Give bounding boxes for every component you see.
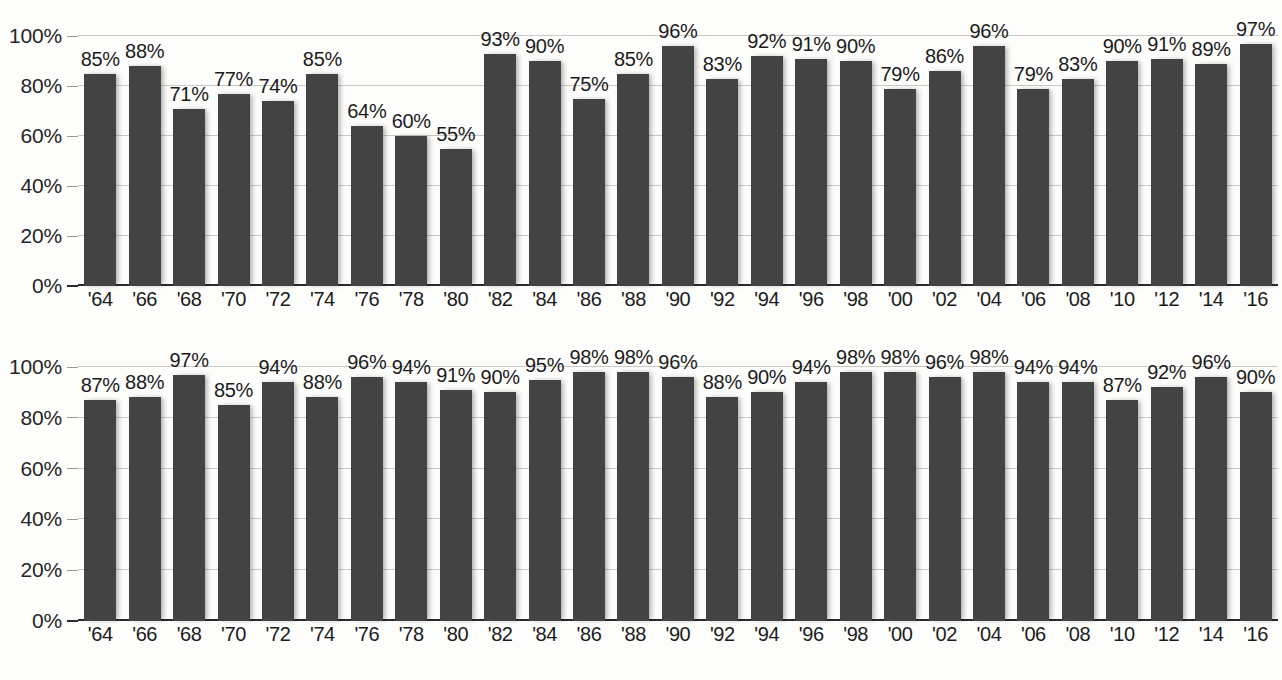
bar-value-label: 90% — [1103, 35, 1142, 58]
x-axis-tick-label: '98 — [833, 288, 877, 322]
x-axis-tick-label: '74 — [300, 288, 344, 322]
bar-value-label: 96% — [658, 20, 697, 43]
bar-series-bottom: 87%88%97%85%94%88%96%94%91%90%95%98%98%9… — [78, 367, 1278, 621]
x-axis-tick-label: '78 — [389, 288, 433, 322]
bar-value-label: 90% — [525, 35, 564, 58]
y-axis-bottom: 0%20%40%60%80%100% — [0, 367, 78, 621]
bar-slot: 87% — [1100, 367, 1144, 621]
y-axis-tick-label: 40% — [21, 174, 62, 198]
bar: 98% — [884, 372, 916, 621]
bar: 94% — [395, 382, 427, 621]
bar: 94% — [262, 382, 294, 621]
bar-slot: 93% — [478, 36, 522, 286]
y-axis-tick: 60% — [21, 457, 78, 481]
bar-chart-bottom: 0%20%40%60%80%100% 87%88%97%85%94%88%96%… — [0, 345, 1282, 665]
bar-value-label: 91% — [436, 364, 475, 387]
y-axis-tick-label: 40% — [21, 507, 62, 531]
bar-value-label: 85% — [303, 48, 342, 71]
bar-slot: 94% — [1011, 367, 1055, 621]
y-axis-tick: 40% — [21, 174, 78, 198]
bar-slot: 83% — [700, 36, 744, 286]
bar-slot: 85% — [611, 36, 655, 286]
bar-slot: 91% — [434, 367, 478, 621]
bar: 83% — [706, 79, 738, 287]
bar-value-label: 94% — [258, 356, 297, 379]
y-axis-top: 0%20%40%60%80%100% — [0, 36, 78, 286]
bar: 75% — [573, 99, 605, 287]
x-axis-tick-label: '84 — [522, 288, 566, 322]
bar-slot: 55% — [434, 36, 478, 286]
x-axis-tick-label: '70 — [211, 623, 255, 657]
y-axis-tick-label: 20% — [21, 224, 62, 248]
y-axis-tick-mark — [67, 86, 78, 87]
x-axis-tick-label: '90 — [656, 623, 700, 657]
x-axis-tick-label: '06 — [1011, 288, 1055, 322]
bar: 97% — [173, 375, 205, 621]
bar-slot: 90% — [745, 367, 789, 621]
x-axis-tick-label: '72 — [256, 623, 300, 657]
x-axis-tick-label: '12 — [1145, 623, 1189, 657]
bar-value-label: 71% — [170, 83, 209, 106]
bar-slot: 85% — [300, 36, 344, 286]
bar-slot: 90% — [1100, 36, 1144, 286]
bar: 96% — [662, 46, 694, 286]
bar: 92% — [1151, 387, 1183, 621]
bar: 90% — [1240, 392, 1272, 621]
bar-slot: 98% — [611, 367, 655, 621]
bar-value-label: 85% — [81, 48, 120, 71]
bar: 85% — [617, 74, 649, 287]
x-axis-tick-label: '64 — [78, 288, 122, 322]
y-axis-tick: 80% — [21, 74, 78, 98]
bar: 93% — [484, 54, 516, 287]
bar-slot: 75% — [567, 36, 611, 286]
bar: 90% — [840, 61, 872, 286]
bar-value-label: 83% — [703, 53, 742, 76]
x-axis-tick-label: '86 — [567, 288, 611, 322]
bar-slot: 94% — [389, 367, 433, 621]
x-axis-tick-label: '78 — [389, 623, 433, 657]
bar-value-label: 97% — [170, 349, 209, 372]
x-axis-tick-label: '74 — [300, 623, 344, 657]
bar-value-label: 93% — [481, 28, 520, 51]
y-axis-tick-label: 100% — [9, 355, 62, 379]
bar-slot: 88% — [300, 367, 344, 621]
y-axis-tick: 80% — [21, 406, 78, 430]
bar-slot: 98% — [967, 367, 1011, 621]
bar-value-label: 85% — [614, 48, 653, 71]
bar: 88% — [129, 397, 161, 621]
y-axis-tick-label: 60% — [21, 457, 62, 481]
x-axis-tick-label: '66 — [122, 623, 166, 657]
x-axis-tick-label: '02 — [922, 623, 966, 657]
bar-value-label: 87% — [81, 374, 120, 397]
bar-value-label: 89% — [1192, 38, 1231, 61]
bar: 83% — [1062, 79, 1094, 287]
bar-value-label: 96% — [925, 351, 964, 374]
y-axis-tick-label: 100% — [9, 24, 62, 48]
bar-slot: 98% — [878, 367, 922, 621]
y-axis-tick-mark — [67, 236, 78, 237]
bar-value-label: 94% — [792, 356, 831, 379]
bar: 77% — [218, 94, 250, 287]
y-axis-tick-mark — [67, 36, 78, 37]
bar: 96% — [662, 377, 694, 621]
bar: 90% — [529, 61, 561, 286]
bar-slot: 91% — [1145, 36, 1189, 286]
y-axis-tick-mark — [67, 620, 78, 622]
x-axis-tick-label: '72 — [256, 288, 300, 322]
bar-value-label: 95% — [525, 354, 564, 377]
bar-value-label: 96% — [1192, 351, 1231, 374]
x-axis-tick-label: '66 — [122, 288, 166, 322]
bar: 92% — [751, 56, 783, 286]
x-axis-tick-label: '80 — [434, 623, 478, 657]
bar-slot: 79% — [1011, 36, 1055, 286]
bar-value-label: 96% — [347, 351, 386, 374]
bar-value-label: 90% — [481, 366, 520, 389]
bar: 95% — [529, 380, 561, 621]
x-axis-tick-label: '10 — [1100, 623, 1144, 657]
bar: 98% — [973, 372, 1005, 621]
bar-value-label: 88% — [125, 371, 164, 394]
x-axis-tick-label: '10 — [1100, 288, 1144, 322]
bar-value-label: 83% — [1058, 53, 1097, 76]
bar-slot: 83% — [1056, 36, 1100, 286]
y-axis-tick-mark — [67, 417, 78, 418]
